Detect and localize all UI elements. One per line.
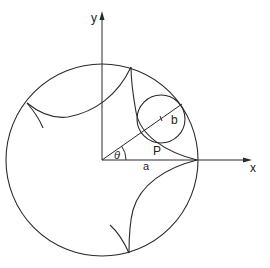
hypocycloid-arc-1 — [131, 67, 197, 160]
hypocycloid-arc-2 — [27, 67, 131, 117]
theta-label: θ — [114, 149, 120, 161]
hypocycloid-arc-3 — [129, 160, 197, 253]
angle-arc — [122, 146, 126, 160]
y-axis-arrowhead-icon — [100, 11, 105, 20]
hypocycloid-tail-bottom — [110, 225, 129, 253]
p-label: P — [153, 144, 161, 158]
y-axis-label: y — [91, 11, 97, 25]
b-label: b — [171, 113, 178, 127]
hypocycloid-diagram: y x θ a P b — [0, 0, 270, 268]
hypocycloid-tail-left — [27, 103, 43, 128]
a-label: a — [143, 160, 150, 172]
x-axis-label: x — [250, 161, 256, 175]
